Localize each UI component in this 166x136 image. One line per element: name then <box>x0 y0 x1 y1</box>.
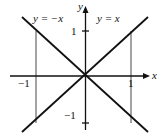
graph-figure: y = −x y = x y x −1 1 1 −1 <box>0 0 166 136</box>
y-axis-tick-label-negative-1: −1 <box>64 110 76 121</box>
x-axis-arrowhead <box>143 73 150 79</box>
x-axis-label: x <box>152 70 157 81</box>
line-label-y-equals-negative-x: y = −x <box>33 13 63 24</box>
y-axis-label: y <box>78 1 83 12</box>
y-axis-tick-label-positive-1: 1 <box>71 26 77 37</box>
coordinate-plot <box>0 0 166 136</box>
line-label-y-equals-x: y = x <box>97 13 120 24</box>
y-axis-arrowhead <box>83 6 89 13</box>
x-axis-tick-label-negative-1: −1 <box>18 78 30 89</box>
x-axis-tick-label-positive-1: 1 <box>128 78 134 89</box>
